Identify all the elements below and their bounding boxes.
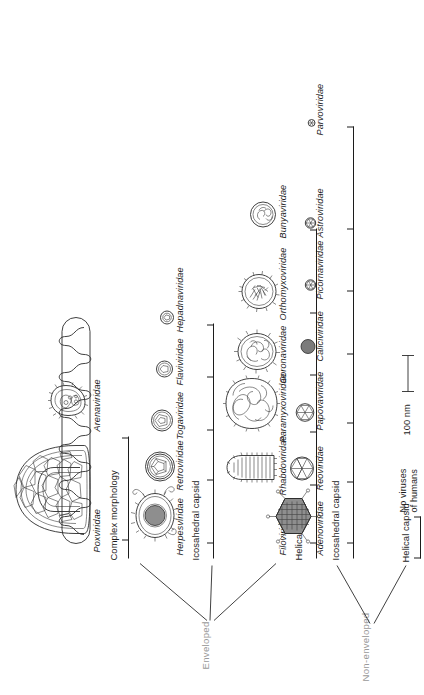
tick-papovaviridae xyxy=(347,422,353,423)
note-no-human-viruses-line1: No viruses xyxy=(398,468,409,512)
axis-end-nonenv-icosahedral xyxy=(347,126,354,127)
group-label-nonenv-icosahedral: Icosahedral capsid xyxy=(330,480,341,560)
family-label-adenoviridae: Adenoviridae xyxy=(315,501,325,555)
tree-connectors-non-enveloped xyxy=(0,0,424,695)
virus-classification-diagram: Enveloped Complex morphology Poxviridae xyxy=(0,0,424,695)
scale-bar: 100 nm xyxy=(396,355,422,435)
tick-caliciviridae xyxy=(347,353,353,354)
tick-adenoviridae xyxy=(347,542,353,543)
family-label-caliciviridae: Caliciviridae xyxy=(315,311,325,361)
particle-caliciviridae xyxy=(300,336,316,354)
axis-nonenv-helical xyxy=(420,516,421,558)
tick-reoviridae xyxy=(347,481,353,482)
family-label-papovaviridae: Papovaviridae xyxy=(315,371,325,430)
particle-papovaviridae xyxy=(294,399,316,423)
axis-end-nonenv-helical-right xyxy=(414,516,421,517)
scale-bar-line xyxy=(398,373,418,393)
particle-astroviridae xyxy=(304,215,317,229)
particle-reoviridae xyxy=(288,452,316,482)
scale-bar-label: 100 nm xyxy=(401,404,412,435)
axis-nonenv-icosahedral xyxy=(353,126,354,558)
particle-parvoviridae xyxy=(307,117,317,127)
figure-canvas: Enveloped Complex morphology Poxviridae xyxy=(0,0,424,695)
particle-picornaviridae xyxy=(304,277,317,291)
tick-picornaviridae xyxy=(347,290,353,291)
family-label-reoviridae: Reoviridae xyxy=(315,446,325,490)
family-label-astroviridae: Astroviridae xyxy=(315,188,325,237)
particle-adenoviridae xyxy=(268,482,316,548)
note-no-human-viruses-line2: of humans xyxy=(409,469,420,512)
tick-astroviridae xyxy=(347,228,353,229)
axis-end-nonenv-helical-left xyxy=(414,557,421,558)
